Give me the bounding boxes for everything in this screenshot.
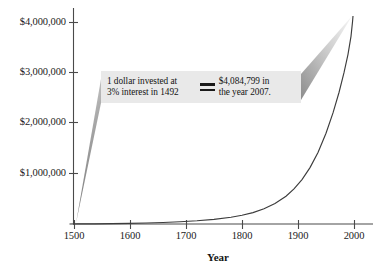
callout-pointer-right xyxy=(301,16,352,100)
x-tick-label-1900: 1900 xyxy=(275,230,321,241)
growth-curve xyxy=(70,16,354,224)
equals-icon xyxy=(197,83,219,91)
x-tick-label-2000: 2000 xyxy=(331,230,376,241)
x-tick-label-1800: 1800 xyxy=(219,230,265,241)
y-tick-label-1000000: $1,000,000 xyxy=(0,167,66,178)
x-tick-label-1600: 1600 xyxy=(107,230,153,241)
callout-left-text: 1 dollar invested at 3% interest in 1492 xyxy=(107,76,197,99)
callout-pointer-left xyxy=(76,79,101,223)
y-tick-label-3000000: $3,000,000 xyxy=(0,66,66,77)
callout-right-text: $4,084,799 in the year 2007. xyxy=(219,76,295,99)
x-tick-label-1500: 1500 xyxy=(51,230,97,241)
y-tick-label-2000000: $2,000,000 xyxy=(0,116,66,127)
x-axis-title: Year xyxy=(168,251,268,263)
chart-figure: $4,000,000 $3,000,000 $2,000,000 $1,000,… xyxy=(0,0,376,273)
annotation-callout: 1 dollar invested at 3% interest in 1492… xyxy=(101,71,301,103)
y-tick-label-4000000: $4,000,000 xyxy=(0,16,66,27)
x-tick-label-1700: 1700 xyxy=(163,230,209,241)
